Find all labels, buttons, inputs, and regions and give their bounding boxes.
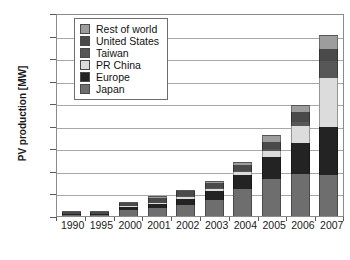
x-axis-tick-label: 2004 xyxy=(234,219,253,231)
bar-segment xyxy=(262,142,281,149)
legend-swatch-icon xyxy=(80,48,90,58)
legend-item: PR China xyxy=(80,59,159,71)
legend-swatch-icon xyxy=(80,60,90,70)
bar-column xyxy=(62,211,81,216)
bar-segment xyxy=(233,175,252,189)
bar-segment xyxy=(262,179,281,216)
x-axis-tick-label: 2001 xyxy=(147,219,166,231)
bar-segment xyxy=(62,215,81,216)
bar-segment xyxy=(119,210,138,216)
legend-swatch-icon xyxy=(80,84,90,94)
x-axis-tick-label: 2000 xyxy=(118,219,137,231)
bar-column xyxy=(262,135,281,216)
bar-column xyxy=(291,105,310,216)
legend-item: Taiwan xyxy=(80,47,159,59)
bar-segment xyxy=(319,61,338,78)
bar-column xyxy=(319,35,338,216)
y-axis-title: PV production [MW] xyxy=(17,29,28,199)
legend-item: Europe xyxy=(80,71,159,83)
bar-segment xyxy=(319,127,338,175)
bar-segment xyxy=(176,205,195,216)
x-axis-tick-labels: 1990199520002001200220032004200520062007 xyxy=(56,219,344,231)
legend-swatch-icon xyxy=(80,72,90,82)
bar-segment xyxy=(291,105,310,113)
x-axis-tick-label: 2006 xyxy=(291,219,310,231)
legend-item: Japan xyxy=(80,83,159,95)
chart-container: PV production [MW] 4.5004.0003.5003.0002… xyxy=(0,0,350,260)
legend-swatch-icon xyxy=(80,24,90,34)
bar-segment xyxy=(319,35,338,49)
bar-segment xyxy=(262,135,281,142)
legend-item-label: Taiwan xyxy=(96,47,129,59)
bar-segment xyxy=(319,49,338,61)
x-axis-tick-label: 2002 xyxy=(176,219,195,231)
legend-item-label: PR China xyxy=(96,59,141,71)
bar-segment xyxy=(205,200,224,216)
bar-column xyxy=(148,196,167,216)
bar-segment xyxy=(319,78,338,127)
legend-item: United States xyxy=(80,35,159,47)
legend-item-label: United States xyxy=(96,35,159,47)
bar-column xyxy=(90,211,109,216)
bar-segment xyxy=(291,126,310,143)
x-axis-tick-label: 2007 xyxy=(320,219,339,231)
bar-segment xyxy=(205,191,224,200)
bar-column xyxy=(233,162,252,216)
bar-segment xyxy=(90,215,109,216)
bar-segment xyxy=(319,175,338,217)
x-axis-tick-label: 1990 xyxy=(61,219,80,231)
bar-segment xyxy=(233,189,252,216)
legend-swatch-icon xyxy=(80,36,90,46)
legend-item-label: Japan xyxy=(96,83,125,95)
bar-column xyxy=(176,190,195,216)
x-axis-tick-label: 1995 xyxy=(90,219,109,231)
x-axis-tick-label: 2003 xyxy=(205,219,224,231)
bar-column xyxy=(119,202,138,216)
x-axis-tick-label: 2005 xyxy=(262,219,281,231)
bar-segment xyxy=(148,208,167,216)
legend-item: Rest of world xyxy=(80,23,159,35)
bar-segment xyxy=(291,112,310,121)
bar-column xyxy=(205,181,224,216)
chart-legend: Rest of worldUnited StatesTaiwanPR China… xyxy=(74,18,168,100)
bar-segment xyxy=(262,157,281,178)
bar-segment xyxy=(291,174,310,216)
bar-segment xyxy=(291,143,310,174)
legend-item-label: Europe xyxy=(96,71,130,83)
legend-item-label: Rest of world xyxy=(96,23,157,35)
